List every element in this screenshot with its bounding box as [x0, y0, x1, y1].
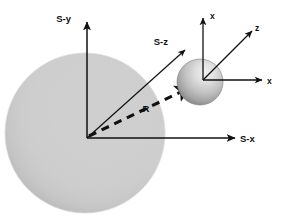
- diagram-svg: S-y S-z S-x x z x R: [0, 0, 286, 217]
- label-s-x: S-x: [240, 133, 256, 144]
- large-sphere: [5, 53, 165, 213]
- label-s-y: S-y: [56, 13, 72, 24]
- diagram-canvas: S-y S-z S-x x z x R: [0, 0, 286, 217]
- local-z-axis: [203, 31, 252, 80]
- label-local-x-up: x: [210, 11, 215, 21]
- label-local-z: z: [255, 23, 259, 33]
- local-coordinate-frame: [203, 18, 262, 80]
- label-s-z: S-z: [154, 36, 169, 47]
- label-local-x-right: x: [267, 76, 272, 86]
- label-r-vector: R: [143, 103, 150, 114]
- small-sphere: [177, 59, 223, 105]
